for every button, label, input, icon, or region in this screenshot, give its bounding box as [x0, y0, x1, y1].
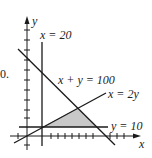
y-axis-label: y [32, 15, 37, 27]
label-x-equals-20: x = 20 [40, 29, 71, 41]
label-y-equals-10: y = 10 [111, 120, 142, 132]
label-x-plus-y-equals-100: x + y = 100 [58, 74, 115, 86]
line-x-plus-y-equals-100 [18, 49, 115, 145]
y-axis-arrow-icon [25, 16, 30, 24]
problem-number: 0. [0, 67, 9, 82]
linear-programming-diagram: 0. y x x = 20 x + y = 100 x = 2y y = 10 [0, 0, 152, 158]
label-x-equals-2y: x = 2y [108, 88, 139, 100]
x-axis-label: x [139, 138, 144, 150]
